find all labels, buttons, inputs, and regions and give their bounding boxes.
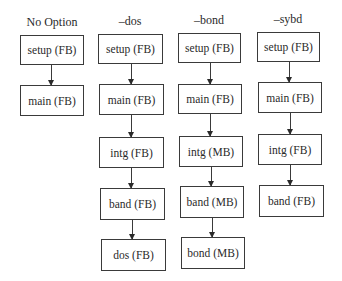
column-header-dos: –dos — [90, 14, 170, 28]
column-header-bond: –bond — [169, 13, 249, 27]
arrow-down-icon — [290, 165, 291, 185]
step-box-band: band (FB) — [100, 188, 165, 220]
step-box-main: main (FB) — [99, 84, 164, 115]
arrow-down-icon — [289, 62, 290, 82]
step-box-setup: setup (FB) — [20, 35, 84, 65]
step-box-intg: intg (MB) — [179, 136, 243, 167]
step-box-setup: setup (FB) — [98, 34, 163, 64]
step-box-bond: bond (MB) — [181, 237, 245, 269]
step-box-intg: intg (FB) — [99, 137, 164, 168]
step-box-main: main (FB) — [258, 82, 322, 113]
arrow-down-icon — [132, 220, 133, 239]
arrow-down-icon — [212, 218, 213, 237]
arrow-down-icon — [131, 115, 132, 137]
column-header-sybd: –sybd — [248, 12, 328, 26]
arrow-down-icon — [211, 167, 212, 186]
step-box-main: main (FB) — [20, 85, 84, 116]
arrow-down-icon — [51, 65, 52, 85]
step-box-band: band (MB) — [180, 186, 244, 218]
step-box-setup: setup (FB) — [257, 32, 320, 62]
column-header-no-option: No Option — [12, 15, 92, 29]
arrow-down-icon — [131, 64, 132, 84]
arrow-down-icon — [210, 63, 211, 84]
step-box-dos: dos (FB) — [101, 239, 166, 271]
step-box-setup: setup (FB) — [178, 33, 241, 63]
arrow-down-icon — [210, 114, 211, 136]
step-box-intg: intg (FB) — [258, 134, 322, 165]
arrow-down-icon — [131, 168, 132, 188]
step-box-main: main (FB) — [178, 84, 242, 114]
step-box-band: band (FB) — [259, 185, 324, 217]
arrow-down-icon — [290, 113, 291, 134]
